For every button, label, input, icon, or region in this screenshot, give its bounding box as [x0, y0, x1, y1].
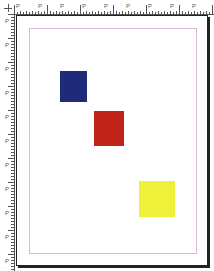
ruler-tick: [11, 113, 14, 114]
ruler-tick: [104, 11, 105, 14]
ruler-tick: [8, 158, 14, 159]
ruler-label: P: [5, 18, 9, 24]
ruler-tick: [11, 107, 14, 108]
ruler-tick: [38, 11, 39, 14]
ruler-tick: [155, 12, 156, 14]
ruler-tick: [110, 11, 111, 14]
ruler-tick: [167, 12, 168, 14]
ruler-tick: [74, 11, 75, 14]
ruler-tick: [182, 11, 183, 14]
ruler-tick: [11, 89, 14, 90]
ruler-tick: [149, 12, 150, 14]
ruler-tick: [14, 5, 15, 14]
ruler-label: P: [192, 3, 196, 9]
ruler-label: P: [5, 66, 9, 72]
ruler-tick: [11, 209, 14, 210]
ruler-tick: [188, 11, 189, 14]
yellow-rectangle[interactable]: [139, 181, 175, 217]
ruler-tick: [173, 12, 174, 14]
ruler-tick: [11, 32, 14, 33]
ruler-tick: [11, 35, 14, 36]
ruler-tick: [11, 95, 14, 96]
ruler-label: P: [5, 114, 9, 120]
ruler-tick: [125, 12, 126, 14]
red-rectangle[interactable]: [94, 111, 124, 146]
ruler-tick: [11, 128, 14, 129]
ruler-tick: [8, 14, 14, 15]
ruler-tick: [11, 212, 14, 213]
ruler-tick: [194, 11, 195, 14]
ruler-tick: [11, 143, 14, 144]
ruler-tick: [11, 98, 14, 99]
ruler-tick: [29, 12, 30, 14]
ruler-tick: [11, 176, 14, 177]
ruler-label: P: [104, 3, 108, 9]
ruler-tick: [11, 53, 14, 54]
ruler-tick: [11, 101, 14, 102]
ruler-tick: [11, 125, 14, 126]
ruler-label: P: [5, 258, 9, 264]
ruler-tick: [8, 182, 14, 183]
ruler-tick: [11, 164, 14, 165]
ruler-tick: [23, 12, 24, 14]
ruler-tick: [197, 12, 198, 14]
ruler-tick: [8, 254, 14, 255]
ruler-label: P: [5, 186, 9, 192]
ruler-tick: [143, 12, 144, 14]
ruler-tick: [158, 11, 159, 14]
ruler-tick: [80, 5, 81, 14]
ruler-tick: [11, 269, 14, 270]
ruler-label: P: [38, 3, 42, 9]
ruler-tick: [44, 11, 45, 14]
ruler-tick: [164, 11, 165, 14]
ruler-tick: [170, 11, 171, 14]
ruler-tick: [131, 12, 132, 14]
ruler-tick: [11, 50, 14, 51]
ruler-origin-corner[interactable]: [0, 0, 14, 14]
ruler-tick: [11, 20, 14, 21]
ruler-tick: [11, 233, 14, 234]
blue-rectangle[interactable]: [60, 71, 87, 102]
vertical-ruler[interactable]: PPPPPPPPPPP: [5, 14, 15, 271]
ruler-tick: [95, 12, 96, 14]
ruler-tick: [134, 11, 135, 14]
ruler-tick: [47, 5, 48, 14]
ruler-tick: [11, 122, 14, 123]
ruler-tick: [20, 11, 21, 14]
ruler-tick: [11, 260, 14, 261]
ruler-label: P: [5, 234, 9, 240]
ruler-tick: [11, 17, 14, 18]
ruler-tick: [59, 12, 60, 14]
ruler-tick: [50, 11, 51, 14]
ruler-tick: [176, 11, 177, 14]
ruler-tick: [11, 26, 14, 27]
ruler-tick: [11, 227, 14, 228]
ruler-tick: [11, 245, 14, 246]
ruler-tick: [119, 12, 120, 14]
ruler-tick: [185, 12, 186, 14]
ruler-tick: [191, 12, 192, 14]
ruler-tick: [11, 257, 14, 258]
crosshair-icon-vertical: [8, 4, 9, 12]
ruler-tick: [11, 188, 14, 189]
ruler-tick: [122, 11, 123, 14]
ruler-tick: [137, 12, 138, 14]
ruler-tick: [11, 224, 14, 225]
ruler-tick: [11, 146, 14, 147]
horizontal-ruler[interactable]: PPPPPPPPP: [14, 5, 214, 15]
ruler-tick: [17, 12, 18, 14]
ruler-tick: [11, 239, 14, 240]
ruler-tick: [8, 62, 14, 63]
ruler-tick: [11, 236, 14, 237]
ruler-tick: [11, 104, 14, 105]
ruler-tick: [11, 263, 14, 264]
ruler-tick: [71, 12, 72, 14]
ruler-tick: [152, 11, 153, 14]
ruler-label: P: [5, 162, 9, 168]
ruler-tick: [11, 215, 14, 216]
ruler-tick: [8, 86, 14, 87]
ruler-tick: [11, 59, 14, 60]
ruler-tick: [11, 80, 14, 81]
ruler-tick: [11, 44, 14, 45]
ruler-tick: [8, 206, 14, 207]
